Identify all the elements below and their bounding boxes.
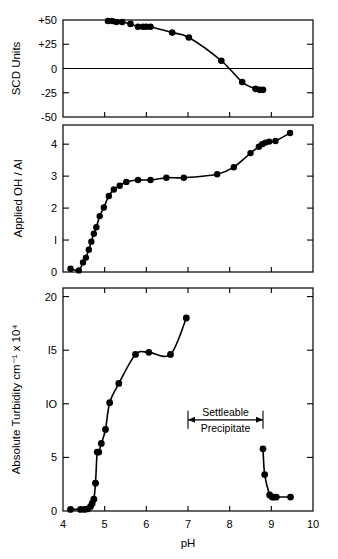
data-point (260, 445, 267, 452)
data-point (145, 349, 152, 356)
x-tick-label: 6 (143, 518, 149, 530)
data-point (67, 266, 73, 272)
bottom-dispersed-curve (71, 318, 187, 509)
data-point (123, 179, 129, 185)
top-curve (108, 21, 263, 90)
y-tick-label: -25 (41, 87, 57, 99)
data-point (287, 494, 294, 501)
y-tick-label: +25 (38, 38, 57, 50)
data-point (218, 57, 225, 64)
data-point (167, 351, 174, 358)
data-point (116, 183, 122, 189)
annotation-label-top: Settleable (202, 406, 249, 418)
x-axis: 45678910pH (60, 518, 319, 549)
data-point (111, 186, 117, 192)
y-tick-label: IO (45, 398, 57, 410)
middle-points (67, 130, 293, 274)
y-tick-label: +50 (38, 14, 57, 26)
data-point (76, 267, 82, 273)
data-point (163, 175, 169, 181)
y-tick-label: I5 (48, 344, 57, 356)
data-point (67, 506, 74, 513)
annotation-left-arrow (188, 417, 195, 423)
data-point (169, 29, 176, 36)
data-point (266, 138, 272, 144)
data-point (91, 230, 97, 236)
data-point (147, 23, 154, 30)
x-tick-label: 10 (307, 518, 319, 530)
y-tick-label: 5 (51, 451, 57, 463)
data-point (92, 480, 99, 487)
data-point (113, 19, 120, 26)
y-tick-label: 0 (51, 505, 57, 517)
annotation-label-bottom: Precipitate (201, 422, 251, 434)
data-point (88, 238, 94, 244)
data-point (260, 87, 267, 94)
middle-curve (71, 133, 291, 271)
top-points (105, 18, 267, 93)
y-tick-label: 20 (45, 291, 57, 303)
y-axis-title-middle: Applied OH / Al (12, 160, 24, 238)
x-tick-label: 9 (268, 518, 274, 530)
data-point (287, 130, 293, 136)
figure-panel-stack: -50-250+25+50SCD Units0I234Applied OH / … (0, 0, 338, 559)
annotation-right-arrow (256, 417, 263, 423)
y-tick-label: -50 (41, 111, 57, 123)
data-point (231, 164, 237, 170)
panel-frame-bottom: 05IOI520 (45, 288, 313, 517)
data-point (90, 496, 97, 503)
data-point (135, 177, 141, 183)
data-point (102, 426, 109, 433)
data-point (83, 254, 89, 260)
data-point (239, 79, 246, 86)
y-tick-label: 2 (51, 202, 57, 214)
plot-box-bottom (63, 288, 313, 511)
data-point (261, 471, 268, 478)
y-tick-label: 0 (51, 266, 57, 278)
data-point (96, 213, 102, 219)
panel-frame-middle: 0I234 (51, 125, 313, 278)
settleable-precipitate-annotation: SettleablePrecipitate (188, 406, 263, 434)
data-point (214, 171, 220, 177)
bottom-dispersed-points (67, 315, 190, 513)
y-tick-label: 0 (51, 63, 57, 75)
x-axis-title: pH (181, 537, 196, 549)
data-point (147, 177, 153, 183)
data-point (101, 204, 107, 210)
data-point (86, 246, 92, 252)
data-point (272, 138, 278, 144)
y-axis-title-top: SCD Units (10, 41, 22, 95)
data-point (93, 224, 99, 230)
y-tick-label: 4 (51, 138, 57, 150)
x-tick-label: 7 (185, 518, 191, 530)
data-point (98, 440, 105, 447)
data-point (127, 21, 134, 28)
data-point (247, 150, 253, 156)
data-point (132, 351, 139, 358)
data-point (95, 449, 102, 456)
y-axis-title-bottom: Absolute Turbidity cm⁻¹ x 10⁴ (10, 325, 22, 475)
y-tick-label: I (54, 234, 57, 246)
data-point (106, 399, 113, 406)
data-point (181, 175, 187, 181)
data-point (273, 494, 280, 501)
three-panel-titration-figure: -50-250+25+50SCD Units0I234Applied OH / … (0, 0, 338, 559)
x-tick-label: 8 (227, 518, 233, 530)
bottom-settleable-precipitate-points (260, 445, 294, 500)
x-tick-label: 5 (102, 518, 108, 530)
data-point (119, 19, 126, 26)
plot-box-middle (63, 125, 313, 272)
data-point (115, 380, 122, 387)
data-point (183, 315, 190, 322)
data-point (186, 34, 193, 41)
data-point (106, 193, 112, 199)
panel-frame-top: -50-250+25+50 (38, 14, 313, 123)
x-tick-label: 4 (60, 518, 66, 530)
y-tick-label: 3 (51, 170, 57, 182)
